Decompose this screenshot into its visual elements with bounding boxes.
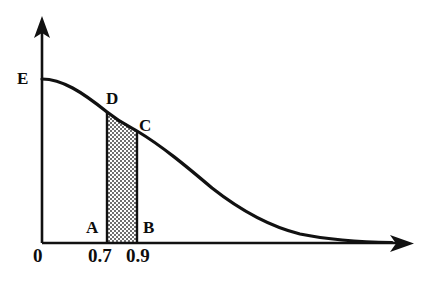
x-tick-label-0-9: 0.9: [126, 246, 150, 265]
figure-canvas: [0, 0, 426, 281]
point-label-C: C: [139, 117, 151, 134]
point-label-A: A: [86, 219, 98, 236]
point-label-B: B: [143, 219, 154, 236]
point-label-D: D: [106, 90, 118, 107]
shaded-strip-ABCD: [107, 112, 137, 243]
point-label-E: E: [17, 70, 28, 87]
x-tick-label-0-7: 0.7: [88, 246, 112, 265]
x-tick-label-0: 0: [33, 246, 43, 265]
figure-container: E D C A B 0 0.7 0.9: [0, 0, 426, 281]
